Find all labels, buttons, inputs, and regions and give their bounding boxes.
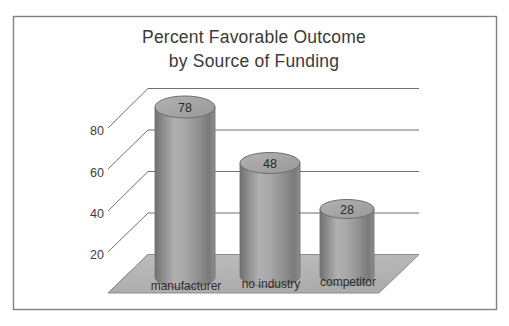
bar-chart-3d: Percent Favorable Outcome by Source of F… bbox=[0, 0, 509, 326]
bar-manufacturer[interactable]: 78 bbox=[155, 96, 215, 288]
y-tick-label-40: 40 bbox=[90, 207, 104, 221]
y-tick-label-20: 20 bbox=[90, 248, 104, 262]
y-tick-label-60: 60 bbox=[90, 166, 104, 180]
chart-title-line-2: by Source of Funding bbox=[169, 51, 339, 71]
chart-container: Percent Favorable Outcome by Source of F… bbox=[0, 0, 509, 326]
bar-value-manufacturer: 78 bbox=[178, 101, 192, 115]
bar-value-no-industry: 48 bbox=[263, 157, 277, 171]
chart-title-line-1: Percent Favorable Outcome bbox=[142, 27, 366, 47]
bar-competitor[interactable]: 28 bbox=[320, 200, 374, 286]
category-label-no-industry: no industry bbox=[242, 277, 301, 291]
category-label-competitor: competitor bbox=[320, 275, 376, 289]
category-label-manufacturer: manufacturer bbox=[151, 279, 222, 293]
bar-body-no-industry bbox=[240, 163, 300, 287]
bar-body-manufacturer bbox=[155, 107, 215, 288]
bar-value-competitor: 28 bbox=[340, 203, 354, 217]
y-tick-label-80: 80 bbox=[90, 124, 104, 138]
bar-no-industry[interactable]: 48 bbox=[240, 153, 300, 287]
